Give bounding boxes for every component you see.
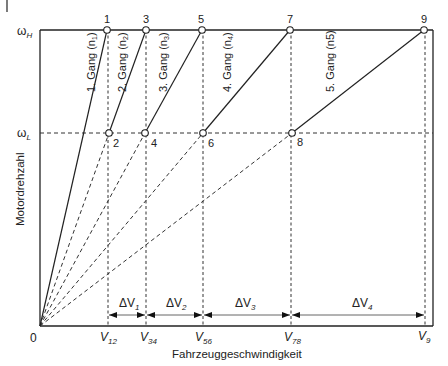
velocity-gridlines bbox=[108, 30, 425, 326]
gear-5-line bbox=[292, 30, 424, 133]
v34-label: V34 bbox=[140, 330, 157, 346]
point-label-1: 1 bbox=[104, 13, 110, 25]
v9-label: V9 bbox=[418, 329, 431, 345]
gear-label-1: 1. Gang (n1) bbox=[85, 32, 98, 92]
gear-label-2: 2. Gang (n2) bbox=[116, 32, 129, 92]
delta-v2-label: ΔV2 bbox=[166, 296, 187, 312]
gear-4-line bbox=[203, 30, 290, 133]
gear-labels: 1. Gang (n1) 2. Gang (n2) 3. Gang (n3) 4… bbox=[85, 30, 336, 92]
x-axis-ticks: V12 V34 V56 V78 V9 bbox=[100, 329, 431, 346]
point-label-4: 4 bbox=[151, 137, 157, 149]
point-3 bbox=[143, 27, 150, 34]
point-7 bbox=[287, 27, 294, 34]
y-axis-title: Motordrehzahl bbox=[14, 152, 26, 226]
point-label-8: 8 bbox=[297, 136, 303, 148]
gear-label-5: 5. Gang (n5) bbox=[324, 30, 336, 92]
gear-shift-diagram: 1 2 3 4 5 6 7 8 9 ωH ωL Motordrehzahl 1.… bbox=[0, 0, 448, 366]
v12-label: V12 bbox=[100, 330, 117, 346]
delta-v-labels: ΔV1 ΔV2 ΔV3 ΔV4 bbox=[119, 296, 373, 312]
point-label-3: 3 bbox=[143, 13, 149, 25]
point-8 bbox=[289, 130, 296, 137]
point-4 bbox=[142, 130, 149, 137]
point-label-7: 7 bbox=[287, 13, 293, 25]
origin-label: 0 bbox=[30, 331, 37, 345]
point-label-2: 2 bbox=[113, 137, 119, 149]
v78-label: V78 bbox=[284, 330, 301, 346]
gear-label-3: 3. Gang (n3) bbox=[157, 32, 170, 92]
axes bbox=[40, 30, 433, 326]
point-6 bbox=[200, 130, 207, 137]
point-2 bbox=[106, 130, 113, 137]
point-label-6: 6 bbox=[208, 137, 214, 149]
gear-3-line bbox=[145, 30, 202, 133]
omega-l-label: ωL bbox=[17, 126, 31, 142]
gear-label-4: 4. Gang (n4) bbox=[221, 32, 234, 92]
point-labels: 1 2 3 4 5 6 7 8 9 bbox=[104, 13, 427, 149]
x-axis-title: Fahrzeuggeschwindigkeit bbox=[172, 348, 303, 360]
v56-label: V56 bbox=[195, 330, 212, 346]
delta-v3-label: ΔV3 bbox=[235, 296, 256, 312]
delta-v1-label: ΔV1 bbox=[119, 296, 139, 312]
point-1 bbox=[104, 27, 111, 34]
point-label-9: 9 bbox=[421, 13, 427, 25]
point-label-5: 5 bbox=[198, 13, 204, 25]
point-5 bbox=[199, 27, 206, 34]
point-9 bbox=[421, 27, 428, 34]
delta-v4-label: ΔV4 bbox=[352, 296, 373, 312]
omega-h-label: ωH bbox=[17, 24, 32, 40]
